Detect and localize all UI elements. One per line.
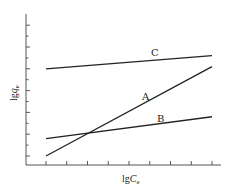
x-axis-ticks bbox=[46, 161, 212, 165]
series-label-c: C bbox=[151, 47, 159, 58]
series-line-b bbox=[46, 117, 212, 139]
series-label-b: B bbox=[157, 113, 164, 124]
series-lines bbox=[46, 56, 212, 156]
isotherm-chart: C A B lgCe lgqe bbox=[0, 0, 243, 190]
x-axis-label: lgCe bbox=[122, 173, 140, 186]
y-axis-ticks bbox=[26, 25, 30, 156]
series-line-a bbox=[46, 67, 212, 156]
series-line-c bbox=[46, 56, 212, 69]
plot-axes bbox=[26, 14, 221, 165]
y-axis-label: lgqe bbox=[8, 85, 21, 101]
series-label-a: A bbox=[141, 91, 150, 102]
